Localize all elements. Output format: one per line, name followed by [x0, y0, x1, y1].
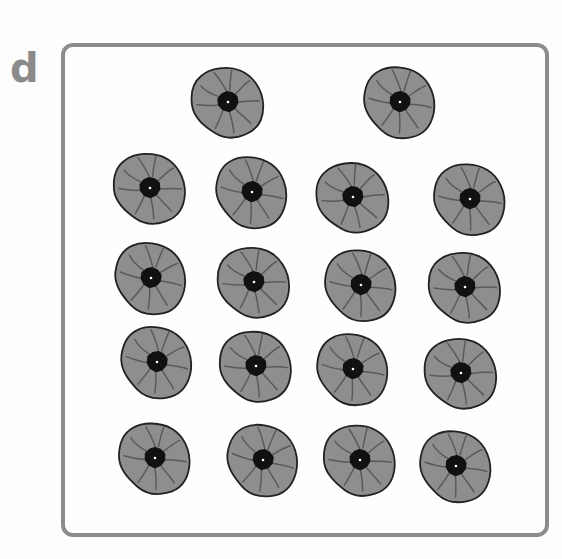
- poppy-flower-icon: [308, 324, 399, 413]
- poppy-flower-icon: [215, 413, 311, 507]
- poppy-flower-icon: [212, 323, 300, 409]
- poppy-flower-icon: [420, 242, 511, 331]
- poppy-flower-icon: [317, 242, 405, 328]
- poppy-flower-icon: [427, 157, 514, 242]
- poppy-flower-icon: [305, 149, 402, 244]
- poppy-flower-icon: [317, 418, 404, 503]
- poppy-flower-icon: [112, 416, 197, 499]
- poppy-flower-icon: [411, 422, 501, 510]
- poppy-flower-icon: [206, 147, 298, 237]
- question-label: d: [10, 48, 39, 88]
- poppy-flower-icon: [105, 144, 195, 232]
- poppy-flower-icon: [110, 316, 203, 408]
- poppy-flower-icon: [355, 58, 445, 146]
- poppy-flower-icon: [104, 232, 199, 325]
- poppy-flower-icon: [414, 327, 507, 419]
- poppy-flower-icon: [181, 56, 276, 149]
- poppy-flower-icon: [208, 237, 300, 327]
